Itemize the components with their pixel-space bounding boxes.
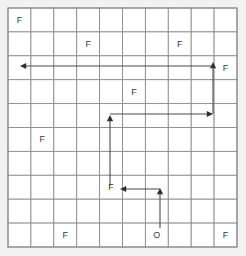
grid-cell[interactable] <box>100 104 123 128</box>
grid-cell[interactable] <box>168 56 191 80</box>
grid-cell[interactable] <box>191 151 214 175</box>
grid-cell[interactable] <box>145 199 168 223</box>
grid-world-canvas: FFFFFFFFOF <box>0 0 246 256</box>
grid-cell[interactable] <box>8 80 31 104</box>
grid-cell[interactable] <box>54 128 77 152</box>
grid-cell[interactable] <box>54 151 77 175</box>
grid-cell[interactable] <box>145 56 168 80</box>
cell-label-f: F <box>131 87 137 97</box>
grid-cell[interactable] <box>8 32 31 56</box>
grid-cell[interactable] <box>145 8 168 32</box>
grid-cell[interactable] <box>8 56 31 80</box>
grid-cell[interactable] <box>145 32 168 56</box>
grid-cell[interactable] <box>100 56 123 80</box>
grid-cell[interactable] <box>77 128 100 152</box>
grid-cell[interactable] <box>123 128 146 152</box>
grid-cell[interactable] <box>191 223 214 247</box>
grid-cell[interactable] <box>191 80 214 104</box>
grid-cell[interactable] <box>168 104 191 128</box>
grid-cell[interactable] <box>31 151 54 175</box>
grid-cell[interactable] <box>31 199 54 223</box>
grid-cell[interactable] <box>214 199 237 223</box>
grid-cell[interactable] <box>191 104 214 128</box>
grid-cell[interactable] <box>77 175 100 199</box>
grid-cell[interactable] <box>168 8 191 32</box>
cell-label-f: F <box>40 134 46 144</box>
grid-cell[interactable] <box>77 151 100 175</box>
grid-cell[interactable] <box>191 128 214 152</box>
grid-cell[interactable] <box>8 128 31 152</box>
grid-cell[interactable] <box>145 104 168 128</box>
grid-cells-layer <box>8 8 237 247</box>
grid-cell[interactable] <box>8 151 31 175</box>
grid-cell[interactable] <box>168 223 191 247</box>
grid-cell[interactable] <box>77 104 100 128</box>
grid-svg: FFFFFFFFOF <box>0 0 246 256</box>
grid-cell[interactable] <box>191 32 214 56</box>
grid-cell[interactable] <box>31 8 54 32</box>
cell-label-f: F <box>108 182 114 192</box>
grid-cell[interactable] <box>77 56 100 80</box>
grid-cell[interactable] <box>54 175 77 199</box>
cell-label-f: F <box>63 230 69 240</box>
grid-cell[interactable] <box>123 104 146 128</box>
grid-cell[interactable] <box>145 128 168 152</box>
cell-label-f: F <box>177 39 183 49</box>
grid-cell[interactable] <box>8 175 31 199</box>
grid-cell[interactable] <box>123 56 146 80</box>
grid-cell[interactable] <box>31 223 54 247</box>
grid-cell[interactable] <box>191 175 214 199</box>
grid-cell[interactable] <box>8 199 31 223</box>
grid-cell[interactable] <box>214 80 237 104</box>
grid-cell[interactable] <box>77 8 100 32</box>
grid-cell[interactable] <box>77 199 100 223</box>
grid-cell[interactable] <box>214 32 237 56</box>
cell-label-f: F <box>17 15 23 25</box>
cell-label-f: F <box>223 63 229 73</box>
grid-cell[interactable] <box>54 8 77 32</box>
grid-cell[interactable] <box>214 8 237 32</box>
grid-cell[interactable] <box>214 175 237 199</box>
grid-cell[interactable] <box>191 8 214 32</box>
grid-cell[interactable] <box>214 128 237 152</box>
grid-cell[interactable] <box>168 80 191 104</box>
grid-cell[interactable] <box>77 80 100 104</box>
grid-cell[interactable] <box>123 199 146 223</box>
grid-cell[interactable] <box>191 199 214 223</box>
grid-cell[interactable] <box>100 80 123 104</box>
grid-cell[interactable] <box>100 8 123 32</box>
grid-cell[interactable] <box>214 104 237 128</box>
cell-label-f: F <box>85 39 91 49</box>
grid-cell[interactable] <box>31 104 54 128</box>
grid-cell[interactable] <box>54 104 77 128</box>
grid-cell[interactable] <box>123 151 146 175</box>
grid-cell[interactable] <box>31 32 54 56</box>
grid-cell[interactable] <box>54 32 77 56</box>
grid-cell[interactable] <box>123 223 146 247</box>
grid-cell[interactable] <box>168 151 191 175</box>
grid-cell[interactable] <box>145 151 168 175</box>
grid-cell[interactable] <box>100 151 123 175</box>
grid-cell[interactable] <box>8 223 31 247</box>
grid-cell[interactable] <box>168 175 191 199</box>
grid-cell[interactable] <box>214 151 237 175</box>
grid-cell[interactable] <box>8 104 31 128</box>
grid-cell[interactable] <box>54 56 77 80</box>
grid-cell[interactable] <box>100 223 123 247</box>
grid-cell[interactable] <box>54 80 77 104</box>
grid-cell[interactable] <box>145 175 168 199</box>
grid-cell[interactable] <box>77 223 100 247</box>
grid-cell[interactable] <box>100 128 123 152</box>
grid-cell[interactable] <box>168 128 191 152</box>
grid-cell[interactable] <box>31 80 54 104</box>
grid-cell[interactable] <box>123 32 146 56</box>
grid-cell[interactable] <box>54 199 77 223</box>
grid-cell[interactable] <box>168 199 191 223</box>
grid-cell[interactable] <box>100 32 123 56</box>
grid-cell[interactable] <box>31 56 54 80</box>
grid-cell[interactable] <box>100 199 123 223</box>
cell-label-o: O <box>153 230 160 240</box>
grid-cell[interactable] <box>31 175 54 199</box>
grid-cell[interactable] <box>123 8 146 32</box>
grid-cell[interactable] <box>145 80 168 104</box>
